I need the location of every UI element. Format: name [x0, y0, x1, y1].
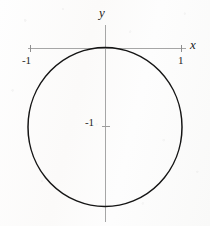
- x-tick-label-pos-one: 1: [178, 55, 183, 66]
- x-axis-label: x: [190, 38, 196, 51]
- y-axis-label: y: [99, 6, 105, 19]
- coordinate-plot: [0, 0, 210, 226]
- x-tick-label-neg-one: -1: [22, 55, 31, 66]
- y-tick-label-neg-one: -1: [85, 117, 94, 128]
- figure-canvas: y x -1 1 -1: [0, 0, 210, 226]
